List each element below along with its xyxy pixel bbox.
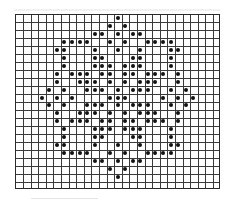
pattern-dot (40, 96, 44, 100)
pattern-dot (138, 88, 142, 92)
pattern-dot (131, 127, 135, 131)
pattern-dot (191, 96, 195, 100)
pattern-dot (93, 48, 97, 52)
pattern-dot (55, 111, 59, 115)
pattern-dot (100, 159, 104, 163)
pattern-dot (153, 111, 157, 115)
pattern-dot (70, 72, 74, 76)
pattern-dot (93, 56, 97, 60)
pattern-dot (93, 80, 97, 84)
grid-row-line (16, 22, 219, 23)
pattern-dot (62, 48, 66, 52)
pattern-dot (176, 111, 180, 115)
grid-row-line (16, 150, 219, 151)
pattern-dot (131, 64, 135, 68)
pattern-dot (176, 48, 180, 52)
pattern-dot (62, 135, 66, 139)
grid-row-line (16, 126, 219, 127)
stitch-pattern-chart (15, 14, 220, 189)
pattern-dot (123, 167, 127, 171)
pattern-dot (108, 127, 112, 131)
pattern-dot (100, 127, 104, 131)
pattern-dot (123, 127, 127, 131)
pattern-dot (116, 175, 120, 179)
pattern-dot (62, 143, 66, 147)
pattern-dot (62, 56, 66, 60)
pattern-dot (78, 72, 82, 76)
pattern-dot (123, 72, 127, 76)
pattern-dot (100, 135, 104, 139)
pattern-dot (146, 72, 150, 76)
pattern-dot (108, 40, 112, 44)
pattern-dot (138, 127, 142, 131)
pattern-dot (146, 111, 150, 115)
pattern-dot (176, 80, 180, 84)
pattern-dot (108, 80, 112, 84)
pattern-dot (169, 64, 173, 68)
pattern-dot (131, 119, 135, 123)
grid-row-line (16, 54, 219, 55)
pattern-dot (153, 119, 157, 123)
pattern-dot (153, 72, 157, 76)
pattern-dot (78, 151, 82, 155)
pattern-dot (131, 103, 135, 107)
pattern-dot (123, 96, 127, 100)
pattern-dot (161, 96, 165, 100)
pattern-dot (108, 72, 112, 76)
pattern-dot (108, 151, 112, 155)
pattern-dot (153, 80, 157, 84)
pattern-dot (55, 72, 59, 76)
pattern-dot (123, 64, 127, 68)
pattern-dot (78, 80, 82, 84)
pattern-dot (93, 64, 97, 68)
pattern-dot (108, 119, 112, 123)
pattern-dot (108, 64, 112, 68)
pattern-dot (146, 80, 150, 84)
pattern-dot (138, 111, 142, 115)
pattern-dot (138, 143, 142, 147)
pattern-dot (100, 32, 104, 36)
pattern-dot (55, 80, 59, 84)
pattern-dot (116, 16, 120, 20)
pattern-dot (100, 64, 104, 68)
pattern-dot (176, 72, 180, 76)
grid-row-line (16, 86, 219, 87)
pattern-dot (100, 103, 104, 107)
pattern-dot (116, 159, 120, 163)
pattern-dot (93, 135, 97, 139)
pattern-dot (161, 151, 165, 155)
pattern-dot (123, 119, 127, 123)
pattern-dot (138, 159, 142, 163)
pattern-dot (85, 72, 89, 76)
pattern-dot (138, 103, 142, 107)
grid-row-line (16, 134, 219, 135)
pattern-dot (62, 103, 66, 107)
pattern-dot (78, 111, 82, 115)
pattern-dot (138, 48, 142, 52)
pattern-dot (161, 119, 165, 123)
faint-underline-artifact (31, 198, 98, 199)
pattern-dot (85, 88, 89, 92)
pattern-dot (153, 151, 157, 155)
grid-row-line (16, 78, 219, 79)
pattern-dot (169, 135, 173, 139)
pattern-dot (131, 135, 135, 139)
pattern-dot (131, 88, 135, 92)
pattern-dot (93, 143, 97, 147)
pattern-dot (108, 96, 112, 100)
pattern-dot (55, 119, 59, 123)
pattern-dot (131, 159, 135, 163)
pattern-dot (78, 40, 82, 44)
pattern-dot (116, 88, 120, 92)
pattern-dot (85, 80, 89, 84)
pattern-dot (116, 48, 120, 52)
pattern-dot (123, 80, 127, 84)
pattern-dot (47, 88, 51, 92)
pattern-dot (138, 135, 142, 139)
pattern-dot (176, 96, 180, 100)
pattern-dot (184, 88, 188, 92)
pattern-dot (169, 56, 173, 60)
pattern-dot (78, 119, 82, 123)
pattern-dot (146, 103, 150, 107)
pattern-dot (85, 119, 89, 123)
